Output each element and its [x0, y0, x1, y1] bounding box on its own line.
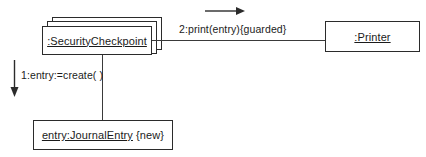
object-printer-name: :Printer: [354, 31, 390, 43]
object-journal-entry-suffix: {new}: [133, 129, 164, 141]
object-printer-label: :Printer: [354, 31, 390, 43]
object-security-checkpoint-name: :SecurityCheckpoint: [47, 35, 147, 47]
object-security-checkpoint-label: :SecurityCheckpoint: [47, 35, 147, 47]
link-securitycheckpoint-printer: [152, 40, 325, 41]
message-create-arrow-icon: [9, 60, 20, 97]
message-print-arrow-icon: [205, 6, 245, 16]
message-print-label: 2:print(entry){guarded}: [179, 23, 286, 35]
object-security-checkpoint[interactable]: :SecurityCheckpoint: [42, 26, 152, 55]
object-journal-entry[interactable]: entry:JournalEntry {new}: [33, 120, 173, 150]
message-create-label: 1:entry:=create( ): [21, 69, 103, 81]
object-journal-entry-label: entry:JournalEntry {new}: [42, 129, 164, 141]
uml-communication-diagram: :SecurityCheckpoint :Printer entry:Journ…: [0, 0, 426, 157]
object-journal-entry-name: entry:JournalEntry: [42, 129, 133, 141]
object-printer[interactable]: :Printer: [325, 21, 420, 52]
link-securitycheckpoint-journalentry: [102, 55, 103, 121]
